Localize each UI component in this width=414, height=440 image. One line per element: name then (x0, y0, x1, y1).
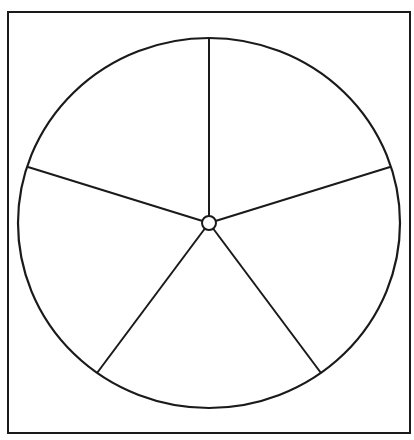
spinner-diagram (0, 0, 414, 440)
spoke-4 (97, 223, 209, 373)
spoke-3 (209, 223, 321, 373)
spoke-2 (209, 167, 390, 223)
spoke-5 (28, 167, 209, 223)
spokes-group (28, 38, 390, 373)
center-hub (202, 216, 216, 230)
